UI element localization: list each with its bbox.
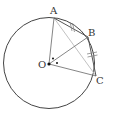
diagram-canvas: A B C O [0,0,122,122]
circle-diagram: A B C O [0,0,122,122]
segment-ob [49,37,88,64]
angle-mark-boc [56,62,58,64]
label-b: B [88,27,95,38]
equal-mark-bc [87,52,98,57]
center-point-o [47,62,50,65]
angle-mark-aob [52,58,54,60]
label-a: A [49,5,58,16]
segment-oa [49,18,54,64]
label-c: C [96,75,104,86]
label-o: O [38,59,46,70]
